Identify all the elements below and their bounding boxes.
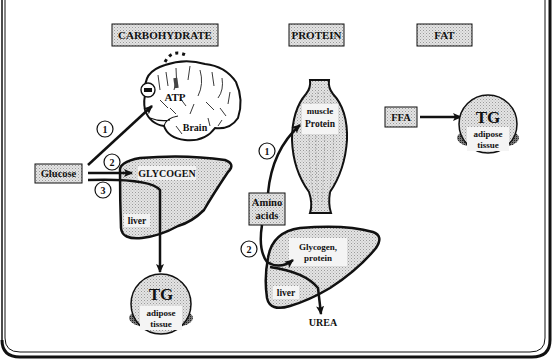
liver-protein-label: liver: [277, 288, 296, 298]
pathway-arrow-1: [88, 106, 152, 165]
protein-pathway-marker-1: 1: [259, 143, 275, 159]
svg-text:2: 2: [247, 244, 252, 255]
glycogen-protein-label-2: protein: [304, 253, 332, 263]
svg-text:1: 1: [103, 124, 108, 135]
muscle-label: muscle: [307, 106, 334, 116]
adipose-label-carbohydrate: adipose: [146, 308, 175, 318]
glucose-box: Glucose: [35, 164, 82, 183]
pathway-marker-3: 3: [95, 182, 111, 198]
glucose-label: Glucose: [41, 168, 77, 179]
glycogen-protein-label-1: Glycogen,: [299, 242, 337, 252]
protein-pathway-marker-2: 2: [241, 241, 257, 257]
pathway-marker-1: 1: [97, 121, 113, 137]
header-carbohydrate: CARBOHYDRATE: [112, 24, 218, 46]
glycogen-label: GLYCOGEN: [138, 168, 196, 179]
liver-label: liver: [128, 216, 147, 226]
inhibit-icon: [144, 88, 152, 92]
header-protein: PROTEIN: [289, 24, 344, 46]
tg-label-carbohydrate: TG: [149, 285, 174, 304]
ffa-label: FFA: [391, 112, 411, 123]
header-carbohydrate-label: CARBOHYDRATE: [118, 29, 212, 41]
brain-label: Brain: [183, 122, 208, 133]
svg-text:3: 3: [101, 185, 106, 196]
adipose-label-fat: adipose: [473, 129, 502, 139]
svg-text:1: 1: [265, 146, 270, 157]
header-protein-label: PROTEIN: [291, 29, 341, 41]
amino-label: Amino: [252, 197, 282, 208]
tissue-label-carbohydrate: tissue: [150, 319, 172, 329]
ffa-box: FFA: [385, 107, 417, 127]
pathway-marker-2: 2: [104, 154, 120, 170]
muscle-icon: [292, 80, 347, 213]
header-fat: FAT: [417, 24, 472, 46]
tg-label-fat: TG: [476, 108, 501, 127]
acids-label: acids: [256, 210, 279, 221]
urea-label: UREA: [309, 317, 338, 328]
atp-label: ATP: [164, 91, 185, 103]
svg-text:2: 2: [110, 157, 115, 168]
header-fat-label: FAT: [434, 29, 455, 41]
tissue-label-fat: tissue: [477, 140, 499, 150]
metabolism-diagram: CARBOHYDRATE PROTEIN FAT ATP Brain GLYCO…: [0, 0, 552, 364]
muscle-protein-label: Protein: [305, 119, 336, 129]
